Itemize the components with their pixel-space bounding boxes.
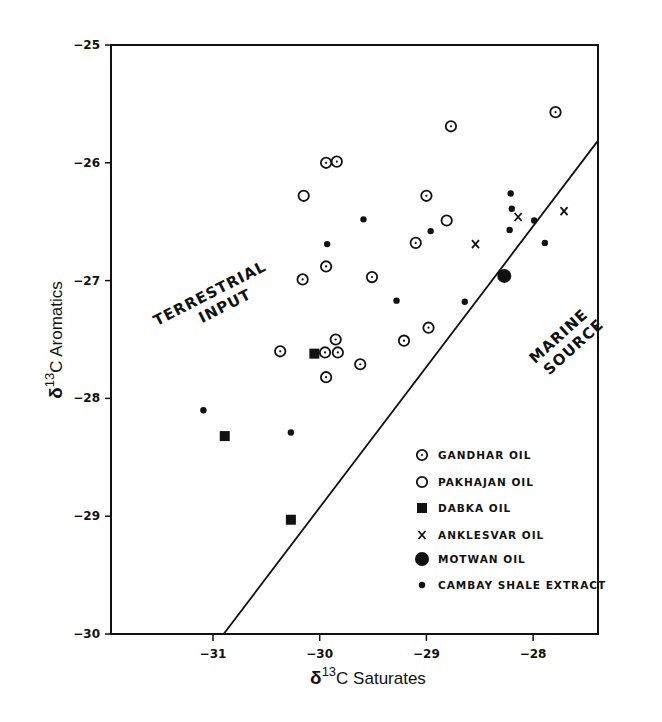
gandhar-oil-point — [423, 323, 433, 333]
y-tick-label: −29 — [73, 509, 100, 523]
cambay-shale-extract-point — [531, 217, 537, 223]
dabka-oil-point — [220, 431, 230, 441]
gandhar-oil-point — [550, 107, 560, 117]
gandhar-oil-point — [355, 359, 365, 369]
y-tick-label: −30 — [73, 627, 100, 641]
x-tick-label: −28 — [520, 647, 547, 661]
x-axis-title: δ13C Saturates — [310, 664, 426, 688]
pakhajan-oil-point — [441, 215, 451, 225]
cambay-shale-extract-point — [288, 429, 294, 435]
gandhar-oil-point — [332, 156, 342, 166]
anklesvar-oil-point — [561, 207, 568, 215]
legend-label: ANKLESVAR OIL — [438, 529, 544, 541]
dabka-oil-legend-icon — [417, 503, 427, 513]
cambay-shale-extract-point — [542, 240, 548, 246]
gandhar-oil-point — [333, 347, 343, 357]
cambay-shale-extract-point — [507, 190, 513, 196]
scatter-chart: −25−26−27−28−29−30 −31−30−29−28 δ13C Aro… — [0, 0, 662, 722]
data-points — [200, 107, 567, 525]
gandhar-oil-point — [321, 158, 331, 168]
dabka-oil-point — [286, 515, 296, 525]
legend-label: DABKA OIL — [438, 502, 511, 514]
marine-source-label: MARINE SOURCE — [526, 302, 608, 381]
gandhar-oil-point — [321, 261, 331, 271]
motwan-oil-legend-icon — [415, 552, 429, 566]
dabka-oil-point — [309, 349, 319, 359]
cambay-shale-extract-point — [393, 297, 399, 303]
cambay-shale-extract-point — [427, 228, 433, 234]
x-tick-label: −31 — [200, 647, 227, 661]
y-axis-ticks: −25−26−27−28−29−30 — [73, 38, 111, 641]
gandhar-oil-point — [399, 335, 409, 345]
legend-label: CAMBAY SHALE EXTRACT — [438, 579, 606, 591]
legend-label: GANDHAR OIL — [438, 449, 531, 461]
gandhar-oil-legend-icon — [417, 450, 427, 460]
legend-item-pakhajan-oil: PAKHAJAN OIL — [417, 476, 534, 488]
y-axis-title: δ13C Aromatics — [42, 281, 66, 399]
pakhajan-oil-legend-icon — [417, 477, 427, 487]
x-tick-label: −30 — [306, 647, 333, 661]
gandhar-oil-point — [411, 238, 421, 248]
anklesvar-oil-point — [472, 240, 479, 248]
cambay-shale-extract-point — [509, 206, 515, 212]
cambay-shale-extract-point — [462, 299, 468, 305]
terrestrial-input-label: TERRESTRIAL INPUT — [150, 257, 277, 345]
x-axis-ticks: −31−30−29−28 — [200, 634, 547, 661]
legend-item-motwan-oil: MOTWAN OIL — [415, 552, 526, 566]
gandhar-oil-point — [320, 347, 330, 357]
legend-item-dabka-oil: DABKA OIL — [417, 502, 511, 514]
legend: GANDHAR OILPAKHAJAN OILDABKA OILANKLESVA… — [415, 449, 606, 591]
y-tick-label: −26 — [73, 156, 100, 170]
cambay-shale-extract-point — [200, 407, 206, 413]
y-tick-label: −25 — [73, 38, 100, 52]
cambay-shale-extract-legend-icon — [419, 582, 425, 588]
legend-label: PAKHAJAN OIL — [438, 476, 534, 488]
terrestrial-marine-divider-line — [224, 140, 599, 634]
legend-label: MOTWAN OIL — [438, 553, 526, 565]
cambay-shale-extract-point — [324, 241, 330, 247]
cambay-shale-extract-point — [506, 227, 512, 233]
y-tick-label: −27 — [73, 274, 100, 288]
anklesvar-oil-point — [515, 213, 522, 221]
gandhar-oil-point — [421, 191, 431, 201]
cambay-shale-extract-point — [360, 216, 366, 222]
gandhar-oil-point — [331, 334, 341, 344]
anklesvar-oil-legend-icon — [419, 531, 426, 539]
legend-item-anklesvar-oil: ANKLESVAR OIL — [419, 529, 545, 541]
y-tick-label: −28 — [73, 391, 100, 405]
x-tick-label: −29 — [413, 647, 440, 661]
motwan-oil-point — [497, 269, 511, 283]
gandhar-oil-point — [321, 372, 331, 382]
legend-item-cambay-shale-extract: CAMBAY SHALE EXTRACT — [419, 579, 606, 591]
legend-item-gandhar-oil: GANDHAR OIL — [417, 449, 532, 461]
gandhar-oil-point — [297, 274, 307, 284]
pakhajan-oil-point — [298, 191, 308, 201]
gandhar-oil-point — [446, 121, 456, 131]
plot-frame — [111, 45, 598, 634]
gandhar-oil-point — [367, 272, 377, 282]
gandhar-oil-point — [275, 346, 285, 356]
